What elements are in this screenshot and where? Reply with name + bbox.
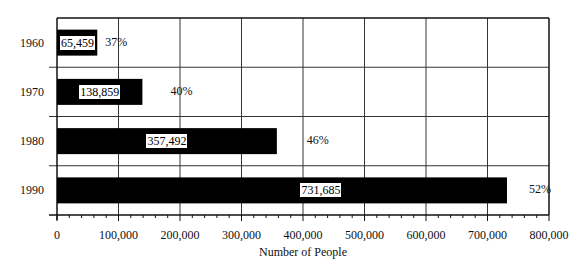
x-tick-label: 400,000 (268, 228, 338, 242)
x-tick-label: 800,000 (514, 228, 583, 242)
y-category-label: 1980 (4, 134, 44, 148)
bar-value-label: 731,685 (300, 183, 341, 197)
bar-1990 (57, 177, 507, 203)
x-tick-label: 600,000 (391, 228, 461, 242)
x-tick-label: 500,000 (330, 228, 400, 242)
bar-value-label: 357,492 (146, 134, 187, 148)
y-category-label: 1960 (4, 36, 44, 50)
percent-label: 46% (307, 133, 329, 147)
bar-value-label: 65,459 (60, 36, 95, 50)
y-category-label: 1990 (4, 183, 44, 197)
x-tick-label: 0 (22, 228, 92, 242)
y-category-label: 1970 (4, 85, 44, 99)
percent-label: 40% (170, 84, 192, 98)
percent-label: 37% (105, 35, 127, 49)
x-tick-label: 200,000 (145, 228, 215, 242)
x-tick-label: 100,000 (84, 228, 154, 242)
bar-value-label: 138,859 (79, 85, 120, 99)
x-tick-label: 700,000 (453, 228, 523, 242)
x-tick-label: 300,000 (207, 228, 277, 242)
x-axis-title: Number of People (0, 245, 583, 259)
horizontal-bar-chart: 196065,45937%1970138,85940%1980357,49246… (0, 0, 583, 272)
percent-label: 52% (529, 182, 551, 196)
